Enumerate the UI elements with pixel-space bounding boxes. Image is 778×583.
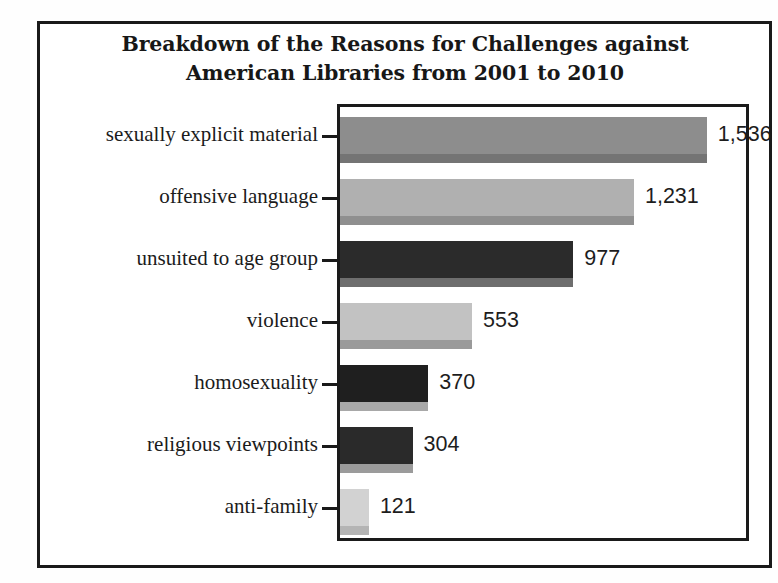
axis-tick bbox=[322, 445, 337, 448]
bar-body bbox=[340, 179, 634, 216]
axis-tick bbox=[322, 197, 337, 200]
bar-shadow bbox=[340, 216, 634, 225]
bar-shadow bbox=[340, 154, 707, 163]
bar-value-label: 1,231 bbox=[645, 184, 699, 209]
bar-offensive-language[interactable] bbox=[340, 179, 634, 241]
axis-tick bbox=[322, 259, 337, 262]
bar-value-label: 1,536 bbox=[718, 122, 772, 147]
chart-title-line-1: Breakdown of the Reasons for Challenges … bbox=[121, 32, 688, 56]
category-label-unsuited-to-age-group: unsuited to age group bbox=[137, 246, 318, 271]
bar-row: 1,231 bbox=[340, 179, 746, 241]
bar-body bbox=[340, 117, 707, 154]
bar-body bbox=[340, 427, 413, 464]
bar-value-label: 121 bbox=[380, 494, 416, 519]
bar-shadow bbox=[340, 402, 428, 411]
bar-row: 370 bbox=[340, 365, 746, 427]
bar-value-label: 553 bbox=[483, 308, 519, 333]
category-label-offensive-language: offensive language bbox=[159, 184, 318, 209]
bar-body bbox=[340, 365, 428, 402]
bar-sexually-explicit-material[interactable] bbox=[340, 117, 707, 179]
bar-row: 1,536 bbox=[340, 117, 746, 179]
category-label-religious-viewpoints: religious viewpoints bbox=[147, 432, 318, 457]
bar-value-label: 304 bbox=[424, 432, 460, 457]
figure-canvas: Breakdown of the Reasons for Challenges … bbox=[0, 0, 778, 583]
axis-tick bbox=[322, 135, 337, 138]
bar-unsuited-to-age-group[interactable] bbox=[340, 241, 573, 303]
bar-religious-viewpoints[interactable] bbox=[340, 427, 413, 489]
bar-value-label: 977 bbox=[584, 246, 620, 271]
bar-shadow bbox=[340, 340, 472, 349]
chart-title-line-2: American Libraries from 2001 to 2010 bbox=[60, 59, 750, 88]
bar-body bbox=[340, 303, 472, 340]
bar-shadow bbox=[340, 464, 413, 473]
bar-shadow bbox=[340, 278, 573, 287]
axis-tick bbox=[322, 321, 337, 324]
bar-body bbox=[340, 241, 573, 278]
plot-inner-surface: 1,5361,231977553370304121 bbox=[340, 107, 746, 538]
bar-homosexuality[interactable] bbox=[340, 365, 428, 427]
category-label-homosexuality: homosexuality bbox=[194, 370, 318, 395]
bar-body bbox=[340, 489, 369, 526]
bar-anti-family[interactable] bbox=[340, 489, 369, 551]
category-label-anti-family: anti-family bbox=[225, 494, 318, 519]
bar-row: 553 bbox=[340, 303, 746, 365]
axis-tick bbox=[322, 507, 337, 510]
axis-tick bbox=[322, 383, 337, 386]
bar-row: 977 bbox=[340, 241, 746, 303]
bar-value-label: 370 bbox=[439, 370, 475, 395]
chart-title: Breakdown of the Reasons for Challenges … bbox=[60, 30, 750, 88]
bar-row: 121 bbox=[340, 489, 746, 551]
bar-row: 304 bbox=[340, 427, 746, 489]
plot-area: 1,5361,231977553370304121 bbox=[337, 104, 749, 541]
category-label-violence: violence bbox=[247, 308, 318, 333]
bar-violence[interactable] bbox=[340, 303, 472, 365]
bar-shadow bbox=[340, 526, 369, 535]
category-label-sexually-explicit-material: sexually explicit material bbox=[106, 122, 318, 147]
